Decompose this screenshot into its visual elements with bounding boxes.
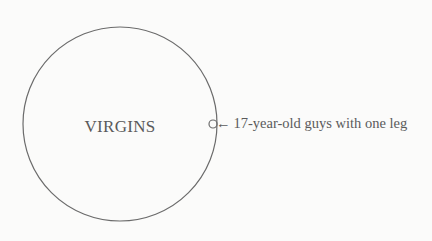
left-arrow-icon: ← bbox=[216, 115, 231, 132]
subset-label: 17-year-old guys with one leg bbox=[234, 115, 408, 131]
virgins-label: VIRGINS bbox=[70, 117, 170, 137]
subset-annotation: ←17-year-old guys with one leg bbox=[216, 115, 407, 132]
